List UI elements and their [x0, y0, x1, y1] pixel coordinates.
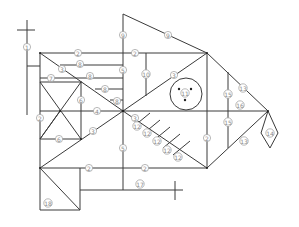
label-12: 12 — [163, 146, 171, 154]
label-text: 2 — [205, 135, 209, 142]
label-text: 2 — [133, 50, 137, 57]
label-text: 8 — [78, 61, 82, 68]
label-text: 10 — [142, 71, 150, 78]
label-text: 12 — [163, 147, 171, 154]
label-text: 4 — [95, 108, 99, 115]
label-12: 12 — [153, 137, 161, 145]
label-9: 9 — [119, 31, 126, 38]
label-text: 5 — [121, 67, 125, 74]
label-5: 5 — [119, 144, 126, 151]
label-13: 13 — [240, 137, 248, 145]
label-2: 2 — [74, 49, 81, 56]
label-text: 15 — [224, 91, 232, 98]
label-8: 8 — [86, 72, 93, 79]
label-6: 6 — [55, 135, 62, 142]
diagram-canvas: 1222222333345566788889910111212121212131… — [0, 0, 299, 227]
label-text: 7 — [49, 75, 53, 82]
label-2: 2 — [141, 164, 148, 171]
label-3: 3 — [170, 71, 177, 78]
label-4: 4 — [93, 107, 100, 114]
label-15: 15 — [224, 90, 232, 98]
label-10: 10 — [142, 70, 150, 78]
main-frame — [40, 14, 268, 210]
label-2: 2 — [85, 164, 92, 171]
pole — [17, 20, 40, 115]
member-labels: 1222222333345566788889910111212121212131… — [23, 31, 274, 207]
label-16: 16 — [236, 101, 244, 109]
label-2: 2 — [203, 134, 210, 141]
label-text: 13 — [240, 138, 248, 145]
label-text: 12 — [153, 138, 161, 145]
bottom-structure — [40, 168, 183, 210]
label-text: 5 — [121, 145, 125, 152]
label-3: 3 — [131, 114, 138, 121]
label-text: 3 — [133, 115, 137, 122]
lattice-12 — [133, 113, 190, 155]
label-6: 6 — [77, 96, 84, 103]
label-text: 8 — [103, 86, 107, 93]
label-3: 3 — [89, 127, 96, 134]
label-text: 17 — [136, 181, 144, 188]
label-1: 1 — [23, 43, 30, 50]
label-text: 3 — [60, 66, 64, 73]
label-13: 13 — [239, 84, 247, 92]
label-8: 8 — [113, 97, 120, 104]
label-text: 2 — [76, 50, 80, 57]
label-text: 6 — [57, 136, 61, 143]
label-text: 15 — [224, 119, 232, 126]
label-7: 7 — [47, 74, 54, 81]
label-8: 8 — [76, 60, 83, 67]
label-18: 18 — [44, 199, 52, 207]
label-5: 5 — [119, 66, 126, 73]
label-12: 12 — [133, 122, 141, 130]
label-14: 14 — [266, 129, 274, 137]
label-text: 1 — [25, 44, 29, 51]
label-text: 9 — [121, 32, 125, 39]
label-9: 9 — [164, 31, 171, 38]
label-text: 14 — [266, 130, 274, 137]
label-text: 3 — [91, 128, 95, 135]
label-text: 13 — [239, 85, 247, 92]
label-text: 12 — [133, 123, 141, 130]
label-text: 8 — [115, 98, 119, 105]
label-text: 11 — [181, 90, 189, 97]
label-text: 2 — [38, 115, 42, 122]
label-15: 15 — [224, 118, 232, 126]
label-2: 2 — [36, 114, 43, 121]
label-11: 11 — [181, 89, 189, 97]
label-text: 16 — [236, 102, 244, 109]
label-text: 12 — [143, 130, 151, 137]
label-2: 2 — [131, 49, 138, 56]
label-text: 2 — [143, 165, 147, 172]
label-8: 8 — [101, 85, 108, 92]
label-text: 3 — [172, 72, 176, 79]
label-3: 3 — [58, 65, 65, 72]
label-17: 17 — [136, 180, 144, 188]
label-text: 9 — [166, 32, 170, 39]
frame-drawing: 1222222333345566788889910111212121212131… — [0, 0, 299, 227]
label-12: 12 — [174, 153, 182, 161]
label-text: 6 — [79, 97, 83, 104]
label-text: 2 — [87, 165, 91, 172]
label-text: 18 — [44, 200, 52, 207]
label-text: 12 — [174, 154, 182, 161]
label-text: 8 — [88, 73, 92, 80]
label-12: 12 — [143, 129, 151, 137]
